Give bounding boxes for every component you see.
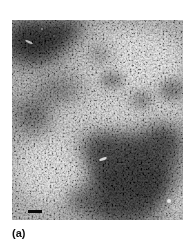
panel-label: (a)	[12, 227, 25, 239]
scale-bar	[28, 210, 42, 213]
micrograph-image	[12, 20, 183, 220]
figure-panel: (a)	[0, 0, 191, 242]
